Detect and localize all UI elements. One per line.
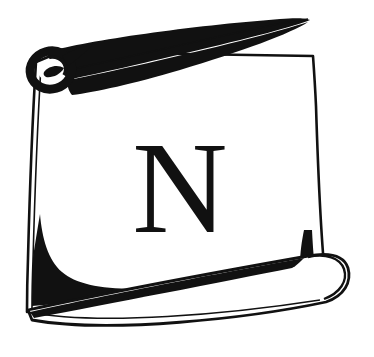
monogram-letter: N (132, 114, 227, 261)
scroll-group: N (26, 18, 349, 325)
scroll-logo-illustration: N (0, 0, 374, 357)
logo-canvas: N (0, 0, 374, 357)
